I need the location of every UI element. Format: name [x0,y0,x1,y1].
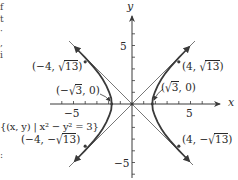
label-4-sqrt13: (4, √13) [182,60,224,72]
x-tick-label-5: 5 [186,107,193,119]
label-4-neg-sqrt13: (4, −√13) [182,133,232,145]
edge-text-fragment: f [0,2,3,12]
label-neg4-neg-sqrt13: (−4, −√13) [21,133,80,145]
edge-text-fragment: i [0,50,3,60]
right-branch-upper-arrow-icon [185,47,190,52]
y-axis [132,16,135,178]
label-sqrt3-0: (√3, 0) [161,81,196,93]
equation-set-label: {(x, y) | x² − y² = 3} [0,121,99,133]
right-branch-lower-arrow-icon [185,157,190,162]
leader-neg-sqrt3 [100,94,110,101]
y-tick-label-neg5: −5 [114,157,129,169]
point-neg4-neg-sqrt13 [84,145,87,148]
edge-text-fragment: · [0,26,3,36]
point-neg-sqrt3-0 [110,103,113,106]
y-axis-label: y [127,1,133,13]
point-4-sqrt13 [177,60,180,63]
point-neg4-sqrt13 [84,60,87,63]
origin-point [130,102,133,105]
point-sqrt3-0 [151,103,154,106]
x-axis-label: x [228,97,234,109]
left-branch-lower-arrow-icon [75,157,80,162]
x-tick-label-neg5: −5 [64,107,79,119]
label-neg-sqrt3-0: (−√3, 0) [56,84,100,96]
point-4-neg-sqrt13 [177,145,180,148]
edge-text-fragment: , [0,38,3,48]
edge-text-fragment: t [0,14,4,24]
hyperbola-graph [0,0,238,180]
label-neg4-sqrt13: (−4, √13) [32,60,82,72]
y-tick-label-5: 5 [120,40,127,52]
left-branch-upper-arrow-icon [75,47,80,52]
edge-text-fragment: : [0,150,3,160]
